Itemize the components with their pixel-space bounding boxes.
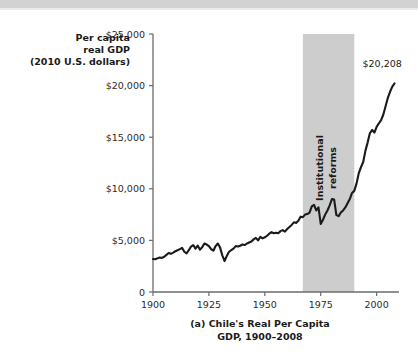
axes: 0$5,000$10,000$15,000$20,000$25,00019001… [106,29,399,311]
institutional-reforms-band: Institutional reforms [303,34,354,292]
figure-container: Institutional reforms Per capita real GD… [0,0,418,352]
x-tick-label: 2000 [365,299,389,310]
chile-gdp-line-chart: Institutional reforms Per capita real GD… [0,0,418,352]
gdp-line-series [153,83,395,261]
institutional-reforms-label-line2: reforms [327,147,338,189]
y-axis-label-line3: (2010 U.S. dollars) [30,56,130,67]
y-tick-label: 0 [139,287,145,298]
x-tick-label: 1950 [253,299,277,310]
institutional-reforms-label-line1: Institutional [314,135,325,201]
y-tick-label: $25,000 [106,29,145,40]
y-axis-label-line2: real GDP [83,44,130,55]
caption-line2: GDP, 1900–2008 [217,331,303,342]
x-tick-label: 1900 [141,299,165,310]
endpoint-value-label: $20,208 [363,58,402,69]
y-tick-label: $10,000 [106,183,145,194]
y-tick-label: $20,000 [106,80,145,91]
x-tick-label: 1925 [197,299,221,310]
caption-line1: (a) Chile's Real Per Capita [190,318,330,329]
x-tick-label: 1975 [309,299,333,310]
y-tick-label: $5,000 [112,235,145,246]
y-tick-label: $15,000 [106,132,145,143]
